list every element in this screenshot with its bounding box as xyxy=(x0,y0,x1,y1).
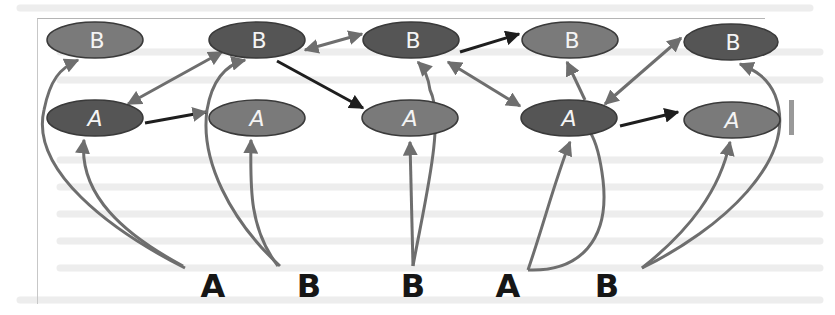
edge-seq1-to-a1 xyxy=(83,140,183,266)
node-a2: A xyxy=(209,100,305,136)
sequence-letter-5: B xyxy=(595,267,619,305)
edge-seq5-to-a5 xyxy=(642,142,730,268)
svg-text:A: A xyxy=(722,108,739,133)
edge-a1-b2 xyxy=(128,52,222,104)
edge-b2-b3 xyxy=(305,34,362,50)
node-b4: B xyxy=(522,22,618,58)
node-a3: A xyxy=(362,100,458,136)
edge-seq1-to-b1 xyxy=(42,60,185,268)
svg-text:B: B xyxy=(251,28,266,53)
edge-seq4-to-a4 xyxy=(528,142,570,270)
svg-text:A: A xyxy=(559,106,576,131)
edge-b3-b4 xyxy=(460,34,519,52)
edge-seq2-to-a2 xyxy=(251,140,278,266)
sequence-letter-4: A xyxy=(496,267,521,305)
edge-seq5-to-b5 xyxy=(642,64,780,268)
edge-a4-b4 xyxy=(567,62,585,100)
svg-text:B: B xyxy=(405,28,420,53)
edge-a4-b5 xyxy=(605,38,681,104)
node-a1: A xyxy=(47,100,143,136)
edge-a1-a2 xyxy=(145,112,206,123)
node-b1: B xyxy=(47,22,143,58)
node-b3: B xyxy=(363,22,459,58)
svg-text:A: A xyxy=(400,106,417,131)
sequence-letter-2: B xyxy=(297,267,321,305)
svg-text:B: B xyxy=(725,30,740,55)
edge-a4-a5 xyxy=(620,112,678,126)
frame-right-mark xyxy=(789,100,794,135)
sequence-letter-1: A xyxy=(201,267,226,305)
svg-text:B: B xyxy=(89,28,104,53)
sequence-letter-3: B xyxy=(401,267,425,305)
svg-text:B: B xyxy=(564,28,579,53)
state-diagram: B A B A B A B A B A A B B A xyxy=(0,0,835,315)
edge-b2-a3 xyxy=(277,61,363,108)
edge-seq2-to-b2 xyxy=(206,60,280,266)
edge-b3-a4 xyxy=(448,62,520,106)
node-b2: B xyxy=(209,22,305,58)
svg-text:A: A xyxy=(85,106,102,131)
node-b5: B xyxy=(684,24,778,60)
node-a4: A xyxy=(521,100,617,136)
edge-seq3-to-b3 xyxy=(413,62,435,266)
input-sequence: A B B A B xyxy=(201,267,620,305)
node-a5: A xyxy=(684,102,780,138)
edge-seq3-to-a3 xyxy=(410,142,413,266)
svg-text:A: A xyxy=(247,106,264,131)
